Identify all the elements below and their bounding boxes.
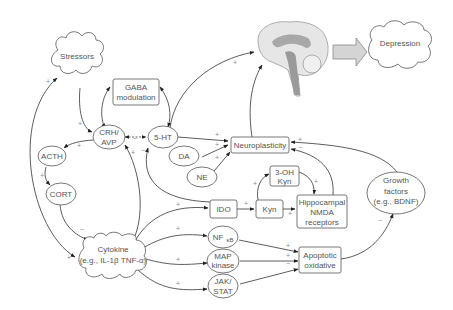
sign: + [215, 141, 219, 148]
node-label: STAT [213, 287, 232, 296]
node-label: Kyn [278, 177, 292, 186]
node-label: Depression [380, 39, 420, 48]
brain-illustration [258, 22, 328, 96]
node-3oh-kyn: 3-OH Kyn [270, 166, 299, 186]
big-arrow-icon [333, 38, 367, 66]
sign: + [244, 200, 248, 207]
node-depression: Depression [369, 21, 432, 69]
node-label: (e.g., IL-1β TNF-α) [80, 256, 147, 265]
node-label: Cytokine [97, 245, 129, 254]
sign: − [141, 147, 145, 154]
node-label: MAP [214, 252, 231, 261]
edge-5ht-brain [170, 52, 254, 128]
node-label: Stressors [60, 52, 94, 61]
node-stressors: Stressors [51, 32, 103, 74]
node-label: modulation [116, 93, 155, 102]
edge-cytokine-stressors [30, 78, 75, 257]
sign: + [46, 78, 50, 85]
edge-jakstat-apoptotic [240, 269, 298, 284]
node-label: IDO [216, 205, 230, 214]
edge-kyn-3ohkyn [257, 174, 269, 200]
edge-acth-cort [45, 167, 50, 185]
node-ido: IDO [210, 200, 237, 218]
sign: + [215, 131, 219, 138]
edge-5ht-neuroplasticity [178, 137, 228, 141]
sign: + [288, 210, 292, 217]
brain-cerebellum [303, 55, 321, 73]
sign: + [286, 242, 290, 249]
node-label: ACTH [41, 152, 63, 161]
node-label: AVP [101, 138, 116, 147]
node-label: Apoptotic [303, 251, 336, 260]
sign: − [133, 135, 137, 142]
sign: + [253, 180, 257, 187]
sign: + [233, 59, 237, 66]
sign: + [298, 136, 302, 143]
node-label: CORT [50, 190, 73, 199]
node-label: JAK/ [215, 277, 233, 286]
node-acth: ACTH [38, 146, 66, 166]
node-label: NE [196, 173, 207, 182]
node-jak-stat: JAK/ STAT [208, 274, 238, 298]
node-map-kinase: MAP kinase [207, 249, 239, 273]
sign: + [176, 256, 180, 263]
node-5ht: 5-HT [148, 126, 178, 148]
edge-gaba-crh [102, 87, 110, 128]
sign: + [131, 149, 135, 156]
node-label: 5-HT [154, 133, 172, 142]
node-cort: CORT [46, 183, 76, 205]
sign: + [215, 154, 219, 161]
sign: + [286, 252, 290, 259]
node-label: Growth [383, 176, 409, 185]
sign: + [176, 225, 180, 232]
edge-neuroplasticity-brain [250, 65, 262, 137]
node-ne: NE [187, 167, 217, 187]
node-crh-avp: CRH/ AVP [93, 125, 125, 149]
node-label: receptors [305, 218, 338, 227]
edge-gaba-5ht [160, 87, 170, 127]
node-label: DA [178, 152, 190, 161]
node-label: CRH/ [99, 128, 119, 137]
edge-cytokine-ido [135, 207, 208, 241]
edge-cort-cytokine [60, 205, 88, 240]
node-cytokine: Cytokine (e.g., IL-1β TNF-α) [79, 232, 147, 278]
edge-cytokine-jakstat [138, 270, 207, 290]
node-label: oxidative [304, 261, 336, 270]
sign: + [67, 254, 71, 261]
sign: + [77, 142, 81, 149]
edge-growth-neuroplasticity [291, 142, 397, 172]
node-growth-factors: Growth factors (e.g., BDNF) [367, 172, 425, 214]
node-label: NMDA [310, 208, 334, 217]
sign: − [378, 217, 382, 224]
sign: + [314, 178, 318, 185]
node-neuroplasticity: Neuroplasticity [231, 137, 289, 153]
node-da: DA [169, 146, 199, 166]
node-label: (e.g., BDNF) [374, 197, 419, 206]
node-nfkb: NF κB [208, 226, 238, 248]
sign: + [40, 172, 44, 179]
node-hippocampal-nmda: Hippocampal NMDA receptors [297, 195, 347, 228]
node-kyn: Kyn [256, 200, 283, 218]
node-label: Hippocampal [299, 198, 346, 207]
node-label: factors [384, 187, 408, 196]
sign: + [176, 280, 180, 287]
node-label: Neuroplasticity [234, 141, 286, 150]
edge-cytokine-crh [125, 145, 140, 236]
node-label: 3-OH [275, 168, 294, 177]
sign: − [80, 226, 84, 233]
sign: + [176, 201, 180, 208]
node-apoptotic-oxidative: Apoptotic oxidative [299, 247, 341, 273]
node-label-subscript: κB [226, 237, 233, 243]
edge-cytokine-nfkb [140, 235, 207, 250]
node-label: Kyn [263, 205, 277, 214]
node-label: kinase [211, 261, 235, 270]
node-gaba-modulation: GABA modulation [113, 79, 159, 105]
node-label: NF [213, 233, 224, 242]
sign: − [298, 144, 302, 151]
node-label: GABA [125, 83, 148, 92]
edge-apoptotic-growth [341, 214, 393, 259]
sign: − [286, 260, 290, 267]
diagram-canvas: + + + + − − + − + + + + + + − + + + + + … [0, 0, 453, 310]
edge-3ohkyn-hippocampal [299, 172, 314, 194]
sign: + [78, 120, 82, 127]
